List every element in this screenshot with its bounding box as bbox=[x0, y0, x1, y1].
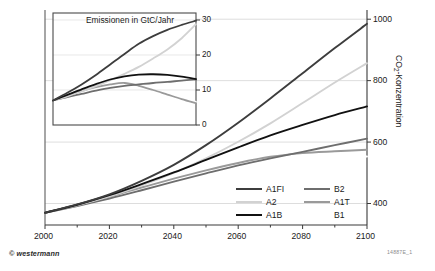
legend-swatch-a2 bbox=[236, 201, 262, 203]
main-x-tick-label: 2020 bbox=[98, 232, 117, 241]
inset-y-tick-label: 10 bbox=[202, 86, 211, 94]
legend-swatch-a1fi bbox=[236, 188, 262, 190]
co2-scenario-figure: Emissionen in GtC/Jahr 0102030 400600800… bbox=[0, 0, 435, 271]
main-x-tick-label: 2040 bbox=[163, 232, 182, 241]
main-y-tick-label: 600 bbox=[373, 138, 387, 147]
legend-swatch-b2 bbox=[304, 188, 330, 190]
main-y-tick-label: 400 bbox=[373, 199, 387, 208]
legend-label-b1: B1 bbox=[334, 210, 345, 221]
copyright-credit: © westermann bbox=[9, 249, 59, 258]
inset-title: Emissionen in GtC/Jahr bbox=[86, 15, 174, 25]
main-y-ticks bbox=[367, 19, 371, 203]
main-x-tick-label: 2100 bbox=[356, 232, 375, 241]
legend-label-a1b: A1B bbox=[266, 210, 282, 221]
legend-label-a2: A2 bbox=[266, 197, 277, 208]
main-x-tick-label: 2080 bbox=[292, 232, 311, 241]
inset-y-tick-label: 0 bbox=[202, 121, 207, 129]
figure-code: 14887E_1 bbox=[387, 249, 412, 255]
y-axis-title-main: CO bbox=[394, 55, 404, 68]
main-x-tick-label: 2000 bbox=[34, 232, 53, 241]
y-axis-title-rest: -Konzentration bbox=[394, 71, 404, 127]
inset-y-tick-label: 30 bbox=[202, 16, 211, 24]
y-axis-title: CO2-Konzentration bbox=[394, 55, 404, 127]
main-x-tick-label: 2060 bbox=[227, 232, 246, 241]
legend-swatch-a1t bbox=[304, 201, 330, 203]
main-y-tick-label: 800 bbox=[373, 76, 387, 85]
legend-label-a1t: A1T bbox=[334, 197, 350, 208]
main-x-ticks bbox=[45, 225, 367, 229]
legend-label-a1fi: A1FI bbox=[266, 184, 284, 195]
legend-label-b2: B2 bbox=[334, 184, 345, 195]
legend-swatch-a1b bbox=[236, 214, 262, 216]
figure-root: Emissionen in GtC/Jahr 0102030 400600800… bbox=[0, 0, 435, 271]
inset-y-tick-label: 20 bbox=[202, 51, 211, 59]
legend: A1FIA2A1BB2A1TB1 bbox=[236, 184, 366, 222]
main-y-tick-label: 1000 bbox=[373, 15, 392, 24]
inset-background bbox=[53, 13, 196, 125]
y-axis-title-sub: 2 bbox=[394, 68, 401, 72]
